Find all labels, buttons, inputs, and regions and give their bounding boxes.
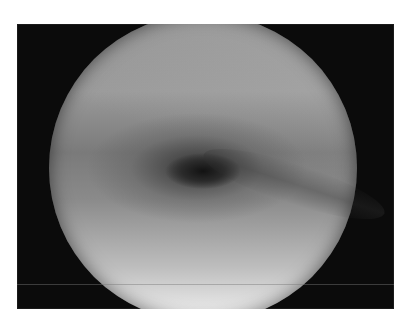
scan-line-artifact xyxy=(17,284,394,285)
endoscopic-image-frame xyxy=(17,24,394,309)
endoscope-circular-view xyxy=(49,24,357,309)
mucosal-fold-shadow xyxy=(197,136,390,233)
